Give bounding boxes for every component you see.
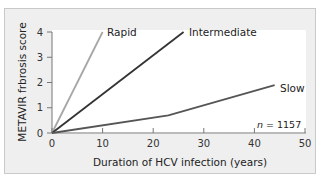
series-line-rapid xyxy=(52,32,103,133)
x-tick-label: 30 xyxy=(197,138,210,149)
y-tick-label: 4 xyxy=(37,27,43,38)
y-tick-label: 0 xyxy=(37,128,43,139)
y-tick-label: 3 xyxy=(37,52,43,63)
y-axis-title: METAVIR frbrosis score xyxy=(16,22,28,141)
x-tick-label: 10 xyxy=(96,138,109,149)
x-axis-title: Duration of HCV infection (years) xyxy=(93,156,267,168)
sample-size-annotation: n = 1157 xyxy=(257,119,301,130)
y-ticks: 01234 xyxy=(37,27,52,139)
series-line-intermediate xyxy=(52,32,184,133)
x-tick-label: 20 xyxy=(147,138,160,149)
series-line-slow xyxy=(52,85,275,133)
series-label-intermediate: Intermediate xyxy=(189,26,257,38)
series-lines xyxy=(52,32,275,133)
chart-svg: 01234 01020304050 Rapid Intermediate Slo… xyxy=(0,0,325,180)
x-ticks: 01020304050 xyxy=(49,128,312,149)
x-tick-label: 50 xyxy=(299,138,312,149)
y-tick-label: 1 xyxy=(37,102,43,113)
series-label-slow: Slow xyxy=(280,82,305,94)
y-tick-label: 2 xyxy=(37,77,43,88)
series-label-rapid: Rapid xyxy=(107,26,137,38)
x-tick-label: 40 xyxy=(248,138,261,149)
x-tick-label: 0 xyxy=(49,138,55,149)
annotation-value: = 1157 xyxy=(263,119,301,130)
